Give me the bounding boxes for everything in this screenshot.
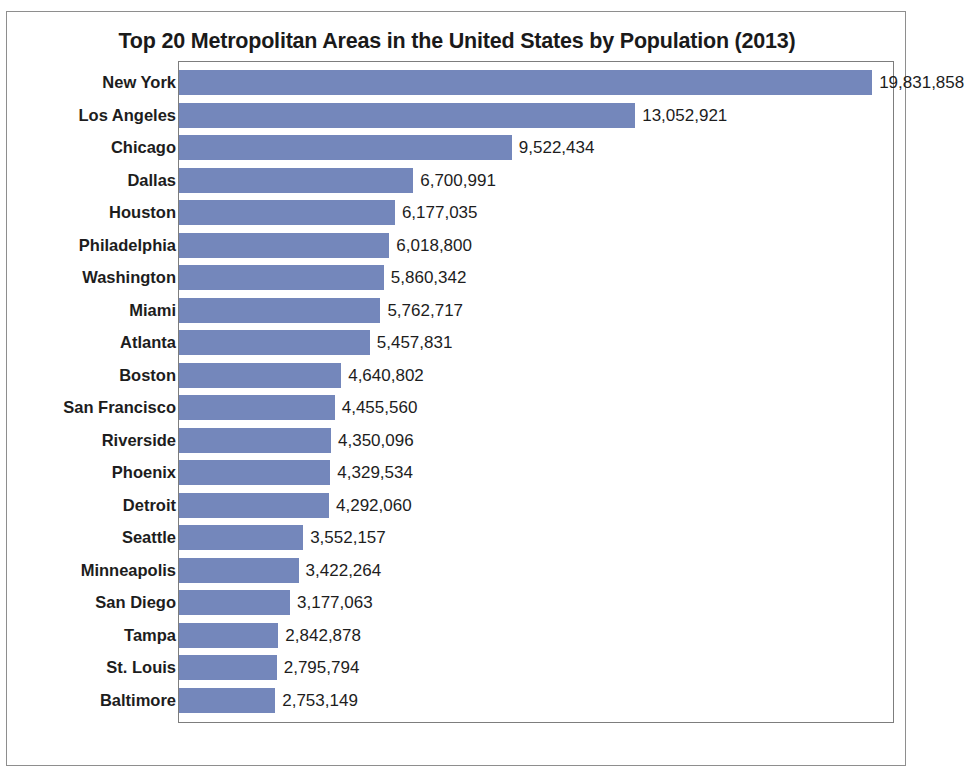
bar-row: New York19,831,858 [7, 70, 907, 103]
bar-row: Riverside4,350,096 [7, 428, 907, 461]
category-label: Miami [129, 298, 176, 323]
bar [179, 493, 329, 518]
bar-row: Atlanta5,457,831 [7, 330, 907, 363]
bar-row: Washington5,860,342 [7, 265, 907, 298]
bar [179, 233, 389, 258]
bar [179, 168, 413, 193]
value-label: 6,177,035 [395, 200, 478, 225]
category-label: Houston [109, 200, 176, 225]
chart-title: Top 20 Metropolitan Areas in the United … [7, 29, 907, 54]
category-label: Philadelphia [79, 233, 176, 258]
bar [179, 460, 330, 485]
category-label: Atlanta [120, 330, 176, 355]
category-label: St. Louis [106, 655, 176, 680]
bar [179, 70, 872, 95]
value-label: 4,455,560 [335, 395, 418, 420]
bar [179, 298, 380, 323]
value-label: 2,842,878 [278, 623, 361, 648]
category-label: Riverside [102, 428, 176, 453]
category-label: Boston [119, 363, 176, 388]
bar-row: Phoenix4,329,534 [7, 460, 907, 493]
bar [179, 103, 635, 128]
bar [179, 395, 335, 420]
value-label: 9,522,434 [512, 135, 595, 160]
bar [179, 525, 303, 550]
bar-row: Miami5,762,717 [7, 298, 907, 331]
category-label: Los Angeles [79, 103, 177, 128]
bar [179, 363, 341, 388]
page-frame: Top 20 Metropolitan Areas in the United … [6, 11, 906, 766]
bar-row: Baltimore2,753,149 [7, 688, 907, 721]
value-label: 5,457,831 [370, 330, 453, 355]
bar-row: San Francisco4,455,560 [7, 395, 907, 428]
bar-row: Boston4,640,802 [7, 363, 907, 396]
category-label: Phoenix [112, 460, 176, 485]
value-label: 3,177,063 [290, 590, 373, 615]
category-label: Seattle [122, 525, 176, 550]
bar-row: Tampa2,842,878 [7, 623, 907, 656]
value-label: 4,329,534 [330, 460, 413, 485]
value-label: 19,831,858 [872, 70, 964, 95]
category-label: Washington [82, 265, 176, 290]
bar-row: Detroit4,292,060 [7, 493, 907, 526]
value-label: 13,052,921 [635, 103, 727, 128]
bar [179, 135, 512, 160]
bar [179, 655, 277, 680]
value-label: 6,018,800 [389, 233, 472, 258]
bar-row: St. Louis2,795,794 [7, 655, 907, 688]
bar-row: Dallas6,700,991 [7, 168, 907, 201]
category-label: San Diego [95, 590, 176, 615]
bar-row: Houston6,177,035 [7, 200, 907, 233]
category-label: Dallas [127, 168, 176, 193]
value-label: 4,350,096 [331, 428, 414, 453]
value-label: 5,860,342 [384, 265, 467, 290]
value-label: 6,700,991 [413, 168, 496, 193]
bar-row: Minneapolis3,422,264 [7, 558, 907, 591]
bar-row: Chicago9,522,434 [7, 135, 907, 168]
bar [179, 330, 370, 355]
bar [179, 265, 384, 290]
bar-row: Philadelphia6,018,800 [7, 233, 907, 266]
category-label: San Francisco [63, 395, 176, 420]
category-label: Tampa [124, 623, 176, 648]
category-label: Detroit [123, 493, 176, 518]
bar [179, 428, 331, 453]
value-label: 4,640,802 [341, 363, 424, 388]
bar [179, 688, 275, 713]
category-label: Baltimore [100, 688, 176, 713]
bar [179, 558, 299, 583]
category-label: New York [102, 70, 176, 95]
bar-row: Seattle3,552,157 [7, 525, 907, 558]
bar [179, 200, 395, 225]
value-label: 3,422,264 [299, 558, 382, 583]
bar-rows-container: New York19,831,858Los Angeles13,052,921C… [7, 61, 907, 723]
bar [179, 590, 290, 615]
value-label: 2,753,149 [275, 688, 358, 713]
category-label: Minneapolis [81, 558, 176, 583]
value-label: 2,795,794 [277, 655, 360, 680]
bar [179, 623, 278, 648]
value-label: 3,552,157 [303, 525, 386, 550]
category-label: Chicago [111, 135, 176, 160]
value-label: 4,292,060 [329, 493, 412, 518]
bar-row: San Diego3,177,063 [7, 590, 907, 623]
value-label: 5,762,717 [380, 298, 463, 323]
bar-row: Los Angeles13,052,921 [7, 103, 907, 136]
